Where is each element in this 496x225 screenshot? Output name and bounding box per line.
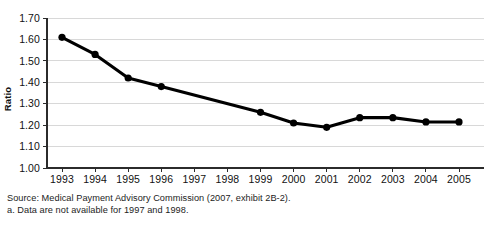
line-chart: 1.701.601.501.401.301.201.101.00 1993199… <box>0 7 496 187</box>
y-tick-label: 1.10 <box>19 140 40 152</box>
footnotes: Source: Medical Payment Advisory Commiss… <box>7 192 493 216</box>
y-tick-label: 1.50 <box>19 55 40 67</box>
x-tick-label: 2005 <box>447 173 471 185</box>
x-tick-label: 1996 <box>149 173 173 185</box>
x-tick-label: 2002 <box>348 173 372 185</box>
data-point <box>125 74 132 81</box>
data-point <box>455 118 462 125</box>
data-point <box>290 119 297 126</box>
data-point <box>91 51 98 58</box>
y-tick-labels: 1.701.601.501.401.301.201.101.00 <box>19 12 40 174</box>
clipped-text-remnant <box>0 0 496 7</box>
x-tick-label: 1999 <box>249 173 273 185</box>
footnote-note-a: a. Data are not available for 1997 and 1… <box>7 204 493 216</box>
data-point <box>158 83 165 90</box>
x-tick-label: 2001 <box>315 173 339 185</box>
y-tick-label: 1.40 <box>19 76 40 88</box>
x-tick-label: 1998 <box>216 173 240 185</box>
y-tick-label: 1.70 <box>19 12 40 24</box>
data-point <box>356 114 363 121</box>
y-axis-title: Ratio <box>2 87 13 111</box>
footnote-source: Source: Medical Payment Advisory Commiss… <box>7 192 493 204</box>
x-axis <box>47 168 484 172</box>
gridlines <box>47 18 484 168</box>
plot-area: 1.701.601.501.401.301.201.101.00 1993199… <box>0 7 496 187</box>
x-tick-label: 1994 <box>83 173 107 185</box>
x-tick-label: 2000 <box>282 173 306 185</box>
x-tick-label: 1997 <box>182 173 206 185</box>
y-axis <box>43 18 47 168</box>
x-tick-label: 2004 <box>414 173 438 185</box>
y-tick-label: 1.20 <box>19 119 40 131</box>
data-point <box>422 118 429 125</box>
y-tick-label: 1.00 <box>19 162 40 174</box>
x-tick-label: 2003 <box>381 173 405 185</box>
data-point <box>389 114 396 121</box>
y-tick-label: 1.30 <box>19 97 40 109</box>
x-tick-labels: 1993199419951996199719981999200020012002… <box>50 173 471 185</box>
y-tick-label: 1.60 <box>19 33 40 45</box>
x-tick-label: 1993 <box>50 173 74 185</box>
data-point <box>58 34 65 41</box>
x-tick-label: 1995 <box>116 173 140 185</box>
data-point <box>257 109 264 116</box>
data-point <box>323 124 330 131</box>
chart-figure: 1.701.601.501.401.301.201.101.00 1993199… <box>0 0 496 225</box>
